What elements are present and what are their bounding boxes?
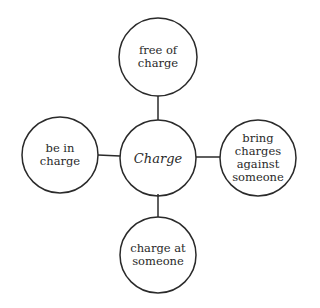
- node-label-top: free of charge: [119, 18, 197, 96]
- node-label-bottom: charge at someone: [120, 217, 196, 293]
- node-label-left: be in charge: [22, 117, 98, 193]
- node-label-right: bring charges against someone: [220, 120, 296, 196]
- center-label: Charge: [120, 120, 196, 196]
- connector-left: [98, 155, 120, 156]
